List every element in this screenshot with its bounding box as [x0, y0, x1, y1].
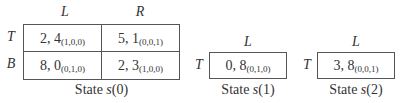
cell-B-R: 2, 3(1,0,0) [102, 52, 179, 79]
transition-prob: (0,1,0) [247, 64, 271, 74]
payoff-matrix: 3, 8(0,0,1) [317, 52, 395, 79]
row-label-T: T [191, 57, 207, 73]
row-label-T: T [299, 57, 315, 73]
transition-prob: (0,0,1) [139, 37, 163, 47]
transition-prob: (0,0,1) [355, 64, 379, 74]
payoff: 3, 8 [334, 58, 355, 74]
caption-arg: (2) [366, 82, 382, 97]
caption-text: State [329, 82, 361, 97]
state-caption: State s(2) [317, 82, 395, 98]
payoff-matrix: 2, 4(1,0,0) 5, 1(0,0,1) 8, 0(0,1,0) 2, 3… [23, 24, 180, 80]
column-label-R: R [125, 4, 155, 20]
caption-text: State [75, 82, 107, 97]
payoff: 0, 8 [226, 58, 247, 74]
row-label-B: B [3, 56, 19, 72]
cell-T-L: 0, 8(0,1,0) [210, 53, 286, 78]
column-label-L: L [341, 34, 371, 50]
caption-text: State [221, 82, 253, 97]
row-label-T: T [3, 29, 19, 45]
cell-B-L: 8, 0(0,1,0) [24, 52, 101, 79]
transition-prob: (0,1,0) [61, 64, 85, 74]
caption-arg: (1) [258, 82, 274, 97]
payoff: 8, 0 [40, 58, 61, 74]
transition-prob: (1,0,0) [139, 64, 163, 74]
state-caption: State s(1) [209, 82, 287, 98]
cell-T-L: 3, 8(0,0,1) [318, 53, 394, 78]
transition-prob: (1,0,0) [61, 37, 85, 47]
column-label-L: L [50, 4, 80, 20]
payoff-matrix: 0, 8(0,1,0) [209, 52, 287, 79]
cell-T-L: 2, 4(1,0,0) [24, 25, 101, 52]
cell-T-R: 5, 1(0,0,1) [102, 25, 179, 52]
payoff: 2, 4 [40, 31, 61, 47]
state-caption: State s(0) [23, 82, 180, 98]
payoff: 5, 1 [118, 31, 139, 47]
payoff: 2, 3 [118, 58, 139, 74]
column-label-L: L [233, 34, 263, 50]
caption-arg: (0) [112, 82, 128, 97]
